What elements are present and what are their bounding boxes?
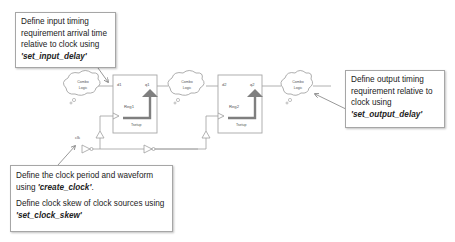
reg2-label: Reg2 <box>229 104 240 109</box>
combo-logic-label: Logic <box>79 86 88 90</box>
output-delay-command: 'set_output_delay' <box>351 110 422 119</box>
output-delay-note-text: Define output timing requirement relativ… <box>351 75 432 107</box>
register-reg2: d2 q2 Reg2 Tsetup <box>218 75 263 133</box>
combo-logic-cloud-1: Combo Logic <box>63 71 100 105</box>
create-clock-command: 'create_clock' <box>38 183 92 192</box>
reg1-q-pin: q1 <box>145 82 150 87</box>
reg1-timing: Tsetup <box>131 123 142 127</box>
reg1-label: Reg1 <box>124 104 135 109</box>
combo-logic-cloud-2: Combo Logic <box>168 71 204 105</box>
clock-label: clk <box>75 135 80 140</box>
combo-logic-cloud-3: Combo Logic <box>281 71 313 105</box>
svg-text:Combo: Combo <box>181 80 193 84</box>
reg2-d-pin: d2 <box>222 82 227 87</box>
output-delay-note: Define output timing requirement relativ… <box>345 70 445 128</box>
reg1-d-pin: d1 <box>117 82 122 87</box>
clock-definition-note: Define the clock period and waveform usi… <box>10 165 173 232</box>
set-clock-skew-command: 'set_clock_skew' <box>16 211 82 220</box>
svg-text:Logic: Logic <box>183 86 192 90</box>
input-delay-note: Define input timing requirement arrival … <box>15 12 116 68</box>
svg-text:Combo: Combo <box>292 80 304 84</box>
reg2-timing: Tsetup <box>236 123 247 127</box>
input-delay-command: 'set_input_delay' <box>21 52 87 61</box>
reg2-q-pin: q2 <box>250 82 255 87</box>
clock-skew-note-text: Define clock skew of clock sources using <box>16 199 164 208</box>
register-reg1: d1 q1 Reg1 Tsetup <box>113 75 158 133</box>
combo-logic-label: Combo <box>77 80 89 84</box>
input-delay-note-text: Define input timing requirement arrival … <box>21 17 107 49</box>
svg-text:Logic: Logic <box>294 86 303 90</box>
